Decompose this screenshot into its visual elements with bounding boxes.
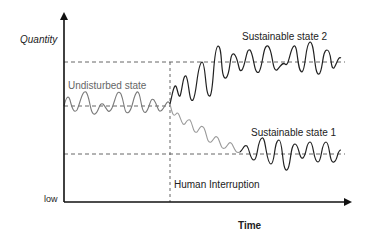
sustainable-state-2-label: Sustainable state 2 [242, 32, 327, 42]
sustainable-state-2-wave [170, 42, 341, 104]
undisturbed-wave [64, 92, 170, 114]
y-axis-low-label: low [44, 195, 58, 204]
sustainable-state-1-label: Sustainable state 1 [251, 128, 336, 138]
undisturbed-state-label: Undisturbed state [68, 81, 146, 91]
declining-wave [170, 104, 240, 153]
human-interruption-label: Human Interruption [174, 180, 260, 190]
y-axis-label: Quantity [20, 35, 57, 45]
x-axis-label: Time [238, 221, 261, 231]
